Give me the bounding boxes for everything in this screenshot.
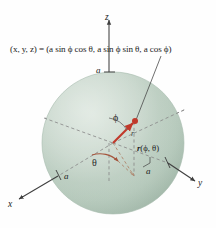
- y-axis-label: y: [198, 179, 202, 189]
- point-on-sphere: [132, 118, 138, 124]
- z-axis-label: z: [105, 13, 109, 23]
- x-axis: [19, 176, 58, 199]
- radius-label-y: a: [146, 167, 151, 176]
- coordinate-formula: (x, y, z) = (a sin ϕ cos θ, a sin ϕ sin …: [10, 45, 171, 54]
- radius-label-x: a: [64, 172, 69, 181]
- radius-label-z: a: [96, 66, 101, 75]
- vector-short-label: r: [131, 130, 134, 138]
- theta-angle-label: θ: [92, 158, 97, 168]
- figure-canvas: [0, 0, 216, 228]
- x-axis-label: x: [8, 200, 12, 210]
- vector-full-label: r(ϕ, θ): [137, 144, 159, 153]
- phi-angle-label: ϕ: [113, 113, 118, 123]
- vector-args: (ϕ, θ): [140, 143, 159, 153]
- spherical-coordinates-figure: (x, y, z) = (a sin ϕ cos θ, a sin ϕ sin …: [0, 0, 216, 228]
